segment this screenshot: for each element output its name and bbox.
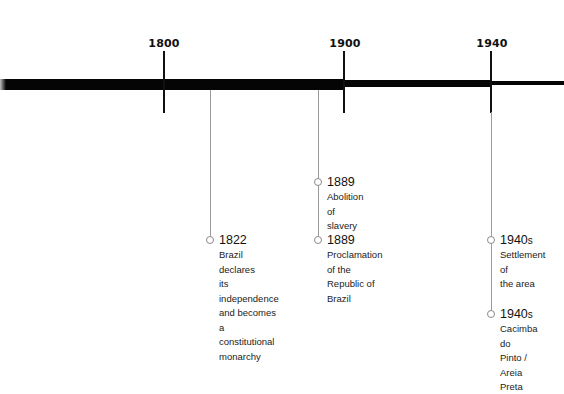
event-node-icon	[487, 310, 495, 318]
event-description: Proclamation of the Republic of Brazil	[327, 248, 382, 306]
event-year: 1940s	[500, 233, 533, 248]
connector-1889	[318, 90, 319, 236]
event-year: 1822	[219, 233, 247, 248]
timeline-bar-segment-pre-1900	[0, 79, 344, 90]
event-description: Abolition of slavery	[327, 190, 363, 234]
event-node-icon	[314, 178, 322, 186]
event-year: 1940s	[500, 307, 533, 322]
connector-1940s	[491, 112, 492, 310]
connector-1822	[210, 90, 211, 236]
tick-label-1940: 1940	[476, 37, 507, 50]
event-node-icon	[206, 236, 214, 244]
tick-label-1900: 1900	[329, 37, 360, 50]
event-node-icon	[314, 236, 322, 244]
tick-1800	[163, 51, 165, 113]
event-description: Brazil declares its independence and bec…	[219, 248, 279, 364]
event-year: 1889	[327, 175, 355, 190]
event-description: Cacimba do Pinto / Areia Preta	[500, 322, 538, 394]
tick-label-1800: 1800	[148, 37, 179, 50]
event-node-icon	[487, 236, 495, 244]
timeline-bar-segment-1900-1940	[344, 80, 491, 87]
timeline-left-fade	[0, 60, 6, 110]
tick-1900	[343, 51, 345, 113]
event-year: 1889	[327, 233, 355, 248]
tick-1940	[490, 51, 492, 113]
event-description: Settlement of the area	[500, 248, 545, 292]
timeline-bar-segment-post-1940	[491, 81, 564, 85]
